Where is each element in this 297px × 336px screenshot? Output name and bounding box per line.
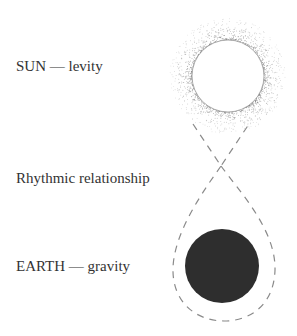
stipple-dot [244,121,245,122]
stipple-dot [270,78,271,79]
stipple-dot [248,45,249,46]
stipple-dot [241,35,242,36]
stipple-dot [232,38,233,39]
stipple-dot [234,118,235,119]
stipple-dot [204,46,205,47]
stipple-dot [267,112,268,113]
stipple-dot [177,62,178,63]
stipple-dot [255,103,256,104]
stipple-dot [195,95,196,96]
stipple-dot [173,76,174,77]
stipple-dot [200,113,201,114]
stipple-dot [178,92,179,93]
stipple-dot [241,110,242,111]
stipple-dot [181,66,182,67]
stipple-dot [253,122,254,123]
stipple-dot [179,53,180,54]
stipple-dot [180,95,181,96]
stipple-dot [232,116,233,117]
stipple-dot [241,39,242,40]
stipple-dot [244,30,245,31]
stipple-dot [260,109,261,110]
stipple-dot [210,122,211,123]
stipple-dot [173,86,174,87]
stipple-dot [184,79,185,80]
stipple-dot [189,80,190,81]
stipple-dot [245,31,246,32]
stipple-dot [186,109,187,110]
stipple-dot [204,41,205,42]
stipple-dot [281,88,282,89]
stipple-dot [198,51,199,52]
stipple-dot [173,90,174,91]
stipple-dot [180,75,181,76]
stipple-dot [207,126,208,127]
stipple-dot [213,30,214,31]
stipple-dot [258,50,259,51]
stipple-dot [245,111,246,112]
stipple-dot [260,45,261,46]
stipple-dot [219,32,220,33]
stipple-dot [266,66,267,67]
stipple-dot [261,60,262,61]
stipple-dot [223,131,224,132]
stipple-dot [206,41,207,42]
stipple-dot [200,111,201,112]
stipple-dot [251,112,252,113]
stipple-dot [228,27,229,28]
stipple-dot [218,29,219,30]
stipple-dot [229,18,230,19]
stipple-dot [194,42,195,43]
stipple-dot [241,30,242,31]
stipple-dot [190,87,191,88]
stipple-dot [197,29,198,30]
stipple-dot [249,110,250,111]
stipple-dot [214,23,215,24]
stipple-dot [269,109,270,110]
stipple-dot [258,124,259,125]
stipple-dot [259,27,260,28]
stipple-dot [255,110,256,111]
stipple-dot [198,104,199,105]
stipple-dot [184,52,185,53]
stipple-dot [252,120,253,121]
stipple-dot [219,131,220,132]
stipple-dot [205,44,206,45]
stipple-dot [198,28,199,29]
stipple-dot [270,97,271,98]
stipple-dot [178,51,179,52]
stipple-dot [179,82,180,83]
stipple-dot [274,85,275,86]
stipple-dot [210,121,211,122]
stipple-dot [189,78,190,79]
stipple-dot [265,110,266,111]
stipple-dot [207,37,208,38]
stipple-dot [227,116,228,117]
stipple-dot [233,29,234,30]
stipple-dot [195,94,196,95]
stipple-dot [216,36,217,37]
stipple-dot [192,58,193,59]
stipple-dot [225,118,226,119]
stipple-dot [222,24,223,25]
stipple-dot [233,36,234,37]
stipple-dot [247,119,248,120]
stipple-dot [217,37,218,38]
stipple-dot [207,112,208,113]
stipple-dot [179,67,180,68]
stipple-dot [279,82,280,83]
stipple-dot [248,126,249,127]
stipple-dot [260,101,261,102]
stipple-dot [197,118,198,119]
stipple-dot [171,87,172,88]
stipple-dot [208,108,209,109]
stipple-dot [238,115,239,116]
stipple-dot [227,30,228,31]
stipple-dot [264,67,265,68]
stipple-dot [240,115,241,116]
stipple-dot [242,32,243,33]
stipple-dot [259,110,260,111]
stipple-dot [214,22,215,23]
stipple-dot [259,33,260,34]
stipple-dot [202,47,203,48]
